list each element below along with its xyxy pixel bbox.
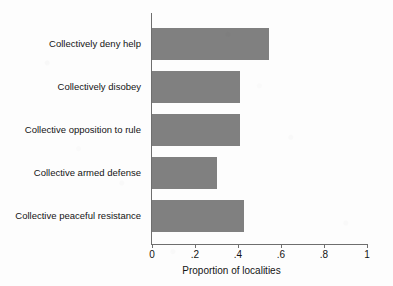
- bar: [152, 157, 217, 189]
- bar: [152, 28, 269, 60]
- bar-category-label: Collective peaceful resistance: [15, 211, 141, 221]
- bar-row: Collective armed defense: [152, 157, 217, 189]
- x-axis-tick: [195, 244, 196, 248]
- x-axis-tick: [367, 244, 368, 248]
- x-axis-title-text: Proportion of localities: [182, 266, 280, 276]
- x-axis-tick-label: .2: [191, 250, 199, 260]
- x-axis-tick: [324, 244, 325, 248]
- bar-row: Collective peaceful resistance: [152, 200, 244, 232]
- x-axis-tick-label: 0: [149, 250, 155, 260]
- x-axis-tick-label: .6: [277, 250, 285, 260]
- bar: [152, 200, 244, 232]
- bar: [152, 71, 240, 103]
- bar-category-label: Collective armed defense: [34, 168, 141, 178]
- bar-category-label: Collective opposition to rule: [25, 125, 141, 135]
- plot-area: Collectively deny help Collectively diso…: [0, 0, 393, 286]
- bar-category-label: Collectively deny help: [49, 39, 141, 49]
- x-axis-line: [151, 244, 368, 245]
- bar-chart: Collectively deny help Collectively diso…: [0, 0, 393, 286]
- x-axis-tick-label: 1: [364, 250, 370, 260]
- x-axis-title: Proportion of localities: [0, 266, 393, 276]
- x-axis-tick-label: .8: [320, 250, 328, 260]
- bar-row: Collective opposition to rule: [152, 114, 240, 146]
- bar-row: Collectively deny help: [152, 28, 269, 60]
- bar-category-label: Collectively disobey: [58, 82, 141, 92]
- bar: [152, 114, 240, 146]
- x-axis-tick: [152, 244, 153, 248]
- x-axis-tick-label: .4: [234, 250, 242, 260]
- x-axis-tick: [281, 244, 282, 248]
- bar-row: Collectively disobey: [152, 71, 240, 103]
- x-axis-tick: [238, 244, 239, 248]
